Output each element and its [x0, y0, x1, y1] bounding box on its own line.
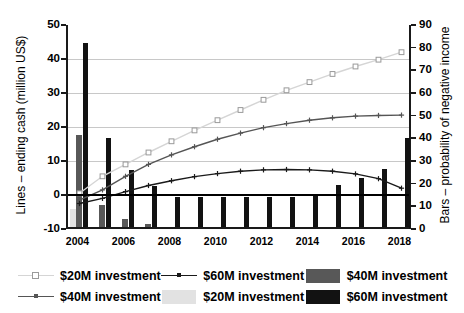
- y-right-tick-label: 30: [419, 155, 453, 167]
- legend-label: $20M investment: [203, 290, 304, 304]
- x-tick-label: 2006: [104, 236, 144, 247]
- x-tick-label: 2010: [196, 236, 236, 247]
- legend-item[interactable]: $20M investment: [18, 269, 161, 283]
- y-axis-right-title: Bars – probability of negative income: [438, 25, 452, 225]
- legend-item[interactable]: $40M investment: [305, 269, 448, 283]
- swatch-fill: [306, 290, 340, 304]
- y-right-tick-label: 10: [419, 200, 453, 212]
- legend-row: $20M investment$60M investment$40M inves…: [18, 265, 448, 286]
- line-marker: [307, 80, 312, 85]
- legend-swatch: [161, 290, 197, 304]
- line-marker: [284, 88, 289, 93]
- line-marker: [192, 144, 197, 149]
- legend-line-key: [18, 269, 54, 283]
- x-tick-label: 2014: [288, 236, 328, 247]
- legend-line-key: [161, 269, 197, 283]
- y-left-tick-label: 30: [26, 87, 60, 99]
- legend-item[interactable]: $60M investment: [161, 269, 304, 283]
- y-left-tick-label: 40: [26, 53, 60, 65]
- y-left-tick-label: 50: [26, 19, 60, 31]
- y-right-tick-label: 0: [419, 223, 453, 235]
- x-tick-label: 2012: [242, 236, 282, 247]
- y-right-tick-label: 90: [419, 19, 453, 31]
- line-marker: [353, 114, 358, 119]
- line-marker: [376, 57, 381, 62]
- line-marker: [146, 183, 151, 188]
- line-marker: [261, 167, 266, 172]
- legend-item[interactable]: $40M investment: [18, 290, 161, 304]
- line-marker: [376, 113, 381, 118]
- line-series: [80, 115, 402, 200]
- legend-line-key: [18, 290, 54, 304]
- line-marker: [376, 176, 381, 181]
- legend-label: $40M investment: [347, 269, 448, 283]
- legend-item[interactable]: $20M investment: [161, 290, 304, 304]
- line-marker: [169, 139, 174, 144]
- plus-marker-icon: [34, 294, 38, 298]
- line-marker: [192, 174, 197, 179]
- line-marker: [169, 152, 174, 157]
- zero-line: [68, 194, 409, 196]
- x-tick-label: 2016: [334, 236, 374, 247]
- line-marker: [123, 162, 128, 167]
- line-marker: [399, 186, 404, 191]
- line-marker: [77, 201, 82, 206]
- line-marker: [238, 131, 243, 136]
- x-tick-label: 2004: [58, 236, 98, 247]
- line-marker: [100, 196, 105, 201]
- chart-legend: $20M investment$60M investment$40M inves…: [18, 265, 448, 307]
- legend-label: $60M investment: [203, 269, 304, 283]
- line-marker: [215, 137, 220, 142]
- legend-label: $20M investment: [60, 269, 161, 283]
- swatch-fill: [162, 290, 196, 304]
- line-marker: [353, 171, 358, 176]
- plus-marker-icon: [177, 273, 181, 277]
- line-marker: [330, 115, 335, 120]
- y-right-tick-label: 50: [419, 110, 453, 122]
- x-tick-label: 2008: [150, 236, 190, 247]
- legend-row: $40M investment$20M investment$60M inves…: [18, 286, 448, 307]
- legend-swatch: [305, 290, 341, 304]
- legend-label: $40M investment: [60, 290, 161, 304]
- legend-label: $60M investment: [347, 290, 448, 304]
- y-right-tick-label: 60: [419, 87, 453, 99]
- y-left-tick-label: 10: [26, 155, 60, 167]
- legend-swatch: [305, 269, 341, 283]
- line-marker: [146, 162, 151, 167]
- line-marker: [353, 64, 358, 69]
- line-layer: [68, 25, 413, 229]
- line-marker: [238, 108, 243, 113]
- line-marker: [215, 171, 220, 176]
- line-marker: [330, 72, 335, 77]
- line-marker: [307, 167, 312, 172]
- line-marker: [146, 150, 151, 155]
- open-square-marker-icon: [32, 272, 39, 279]
- line-marker: [238, 169, 243, 174]
- line-marker: [192, 128, 197, 133]
- line-marker: [284, 167, 289, 172]
- line-marker: [399, 50, 404, 55]
- x-tick-label: 2018: [380, 236, 420, 247]
- axis-baseline: [68, 227, 409, 229]
- y-right-tick-label: 20: [419, 178, 453, 190]
- line-marker: [307, 118, 312, 123]
- legend-item[interactable]: $60M investment: [305, 290, 448, 304]
- plot-area: [66, 25, 411, 229]
- y-left-tick-label: -10: [26, 223, 60, 235]
- line-marker: [330, 169, 335, 174]
- y-right-tick-label: 70: [419, 64, 453, 76]
- chart-container: Lines – ending cash (million US$) Bars –…: [0, 0, 464, 313]
- y-right-tick-label: 80: [419, 42, 453, 54]
- line-marker: [100, 174, 105, 179]
- y-right-tick-label: 40: [419, 132, 453, 144]
- line-marker: [261, 125, 266, 130]
- line-marker: [399, 113, 404, 118]
- y-left-tick-label: 20: [26, 121, 60, 133]
- line-marker: [284, 121, 289, 126]
- line-marker: [261, 97, 266, 102]
- line-marker: [215, 118, 220, 123]
- line-marker: [169, 178, 174, 183]
- y-left-tick-label: 0: [26, 189, 60, 201]
- swatch-fill: [306, 269, 340, 283]
